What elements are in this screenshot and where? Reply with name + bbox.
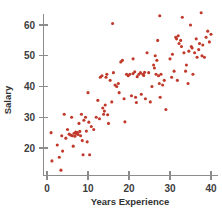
data-point <box>187 50 190 53</box>
data-point <box>96 99 99 102</box>
data-point <box>209 33 212 36</box>
data-point <box>109 79 112 82</box>
y-tick-label: 50 <box>24 50 36 61</box>
data-point <box>107 122 110 125</box>
data-point <box>118 91 121 94</box>
data-point <box>100 74 103 77</box>
y-tick-label: 30 <box>24 112 36 123</box>
data-point <box>63 113 66 116</box>
data-point <box>180 45 183 48</box>
x-tick-label: 0 <box>44 183 50 194</box>
data-point <box>128 73 131 76</box>
data-point <box>123 120 126 123</box>
data-point <box>134 96 137 99</box>
data-point <box>159 73 162 76</box>
data-point <box>149 100 152 103</box>
data-point <box>186 82 189 85</box>
data-point <box>156 39 159 42</box>
data-point <box>106 113 109 116</box>
data-point <box>196 56 199 59</box>
data-point <box>110 100 113 103</box>
data-point <box>78 130 81 133</box>
data-point <box>145 51 148 54</box>
data-point <box>140 93 143 96</box>
data-point <box>142 74 145 77</box>
data-point <box>147 71 150 74</box>
data-point <box>132 57 135 60</box>
data-point <box>60 134 63 137</box>
data-point <box>195 37 198 40</box>
data-point <box>95 116 98 119</box>
x-tick-group: 010203040 <box>44 171 217 194</box>
data-point <box>123 97 126 100</box>
y-tick-label: 60 <box>24 20 36 31</box>
data-point <box>184 70 187 73</box>
data-point <box>117 82 120 85</box>
scatter-chart: 2030405060 010203040 Salary Years Experi… <box>0 0 222 212</box>
data-point <box>144 97 147 100</box>
y-tick-label: 20 <box>24 143 36 154</box>
data-point <box>200 11 203 14</box>
data-point <box>197 48 200 51</box>
y-axis-label: Salary <box>2 85 13 114</box>
data-point <box>72 145 75 148</box>
data-point <box>159 96 162 99</box>
data-point <box>88 153 91 156</box>
data-point <box>208 40 211 43</box>
data-point <box>205 36 208 39</box>
data-point <box>50 131 53 134</box>
data-point <box>135 101 138 104</box>
data-point <box>50 159 53 162</box>
data-point <box>70 116 73 119</box>
data-point <box>66 128 69 131</box>
data-point <box>84 116 87 119</box>
data-point <box>143 71 146 74</box>
data-point <box>115 85 118 88</box>
data-point-group <box>50 11 213 172</box>
data-point <box>170 76 173 79</box>
data-point <box>86 140 89 143</box>
data-point <box>206 30 209 33</box>
data-point <box>82 119 85 122</box>
data-point <box>158 82 161 85</box>
data-point <box>203 56 206 59</box>
x-tick-label: 40 <box>205 183 217 194</box>
y-tick-label: 40 <box>24 81 36 92</box>
data-point <box>85 130 88 133</box>
data-point <box>92 128 95 131</box>
data-point <box>82 153 85 156</box>
data-point <box>86 91 89 94</box>
data-point <box>98 117 101 120</box>
data-point <box>161 83 164 86</box>
data-point <box>189 23 192 26</box>
x-tick-label: 30 <box>164 183 176 194</box>
data-point <box>171 53 174 56</box>
data-point <box>154 54 157 57</box>
data-point <box>191 47 194 50</box>
data-point <box>181 16 184 19</box>
data-point <box>164 108 167 111</box>
data-point <box>193 51 196 54</box>
data-point <box>155 59 158 62</box>
data-point <box>111 22 114 25</box>
x-tick-label: 20 <box>123 183 135 194</box>
data-point <box>177 42 180 45</box>
data-point <box>104 103 107 106</box>
data-point <box>104 76 107 79</box>
data-point <box>103 110 106 113</box>
data-point <box>179 39 182 42</box>
data-point <box>182 51 185 54</box>
data-point <box>56 143 59 146</box>
x-axis-label: Years Experience <box>91 196 170 207</box>
data-point <box>153 67 156 70</box>
x-tick-label: 10 <box>82 183 94 194</box>
data-point <box>101 106 104 109</box>
data-point <box>198 42 201 45</box>
data-point <box>168 57 171 60</box>
data-point <box>90 125 93 128</box>
data-point <box>158 14 161 17</box>
data-point <box>173 70 176 73</box>
data-point <box>133 70 136 73</box>
data-point <box>58 156 61 159</box>
data-point <box>177 34 180 37</box>
